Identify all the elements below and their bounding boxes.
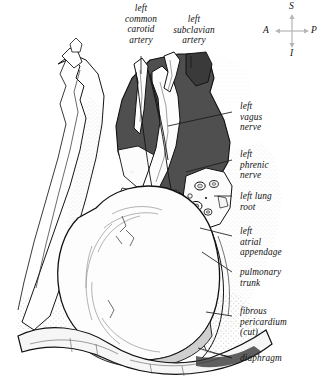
label-left-vagus-nerve: left vagus nerve xyxy=(240,101,326,133)
orientation-arrows xyxy=(275,14,309,48)
label-diaphragm: diaphragm xyxy=(240,353,328,364)
compass-anterior: A xyxy=(263,25,269,35)
label-fibrous-pericardium-cut: fibrous pericardium (cut) xyxy=(240,306,330,338)
compass-posterior: P xyxy=(311,25,317,35)
anatomical-figure: left common carotid artery left subclavi… xyxy=(0,0,330,383)
compass-superior: S xyxy=(289,1,294,11)
label-pulmonary-trunk: pulmonary trunk xyxy=(240,267,328,288)
label-left-atrial-appendage: left atrial appendage xyxy=(240,226,328,258)
label-left-phrenic-nerve: left phrenic nerve xyxy=(240,149,326,181)
label-left-lung-root: left lung root xyxy=(240,191,328,212)
compass-inferior: I xyxy=(290,48,293,58)
label-left-subclavian-artery: left subclavian artery xyxy=(156,14,232,46)
